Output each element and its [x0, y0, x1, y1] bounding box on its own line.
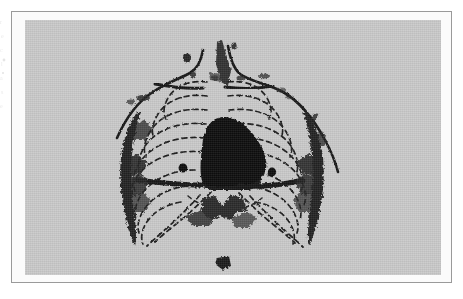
svg-text:e: e	[1, 33, 4, 39]
svg-text:e: e	[0, 103, 3, 109]
document-page: r e c l a s e	[0, 0, 463, 299]
svg-text:l: l	[1, 61, 3, 67]
radiograph-figure	[25, 20, 441, 275]
mediastinal-silhouette	[201, 117, 267, 190]
infra-thoracic-mark	[215, 256, 231, 270]
nodule-left	[179, 163, 188, 172]
svg-text:a: a	[0, 75, 3, 81]
clavicle-right	[225, 86, 273, 88]
svg-text:s: s	[1, 89, 4, 95]
svg-text:r: r	[0, 19, 2, 25]
chest-radiograph-drawing	[25, 20, 441, 275]
nodule-right	[268, 168, 276, 177]
svg-text:c: c	[0, 47, 3, 53]
page-show-through-marks: r e c l a s e	[0, 14, 10, 124]
